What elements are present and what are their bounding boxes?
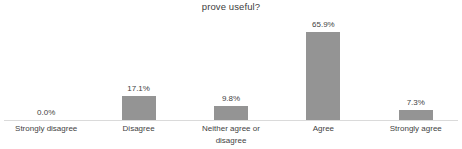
- bar-group-0: 0.0%: [0, 20, 92, 120]
- bar-value-label-3: 65.9%: [312, 20, 335, 30]
- bar-value-label-0: 0.0%: [37, 108, 55, 118]
- bar-column-0: 0.0%: [0, 20, 92, 120]
- bar-value-label-2: 9.8%: [222, 94, 240, 104]
- bar-value-label-4: 7.3%: [407, 98, 425, 108]
- bar-group-3: 65.9%: [277, 20, 369, 120]
- bar-chart: prove useful? 0.0% 17.1% 9.8% 65.9%: [0, 0, 462, 149]
- bar-column-4: 7.3%: [370, 20, 462, 120]
- category-label-disagree: Disagree: [92, 121, 184, 135]
- bar-column-2: 9.8%: [185, 20, 277, 120]
- category-label-strongly-disagree: Strongly disagree: [0, 121, 92, 135]
- chart-title: prove useful?: [0, 1, 462, 12]
- bar-3[interactable]: [306, 32, 340, 120]
- bar-1[interactable]: [122, 96, 156, 120]
- category-label-neither-agree-or-disagree: Neither agree or disagree: [185, 121, 277, 146]
- category-label-agree: Agree: [277, 121, 369, 135]
- bar-group-1: 17.1%: [92, 20, 184, 120]
- bar-2[interactable]: [214, 106, 248, 120]
- plot-area: 0.0% 17.1% 9.8% 65.9% 7.3%: [0, 20, 462, 120]
- bar-column-1: 17.1%: [92, 20, 184, 120]
- bar-value-label-1: 17.1%: [127, 84, 150, 94]
- bar-group-2: 9.8%: [185, 20, 277, 120]
- bar-group-4: 7.3%: [370, 20, 462, 120]
- bar-4[interactable]: [399, 110, 433, 120]
- x-axis-category-labels: Strongly disagree Disagree Neither agree…: [0, 121, 462, 149]
- category-label-strongly-agree: Strongly agree: [370, 121, 462, 135]
- bar-column-3: 65.9%: [277, 20, 369, 120]
